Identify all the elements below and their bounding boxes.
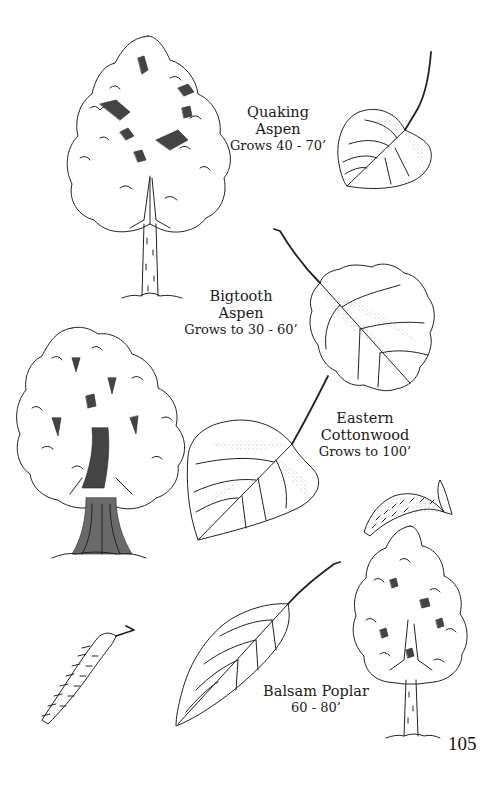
eastern-cottonwood-tree-icon — [12, 318, 190, 570]
species-height: Grows 40 - 70’ — [222, 138, 334, 153]
species-name: Quaking — [222, 104, 334, 121]
eastern-cottonwood-leaf-icon — [180, 372, 330, 554]
page-number: 105 — [448, 733, 477, 755]
species-name: Eastern — [306, 410, 424, 427]
quaking-aspen-label: Quaking Aspen Grows 40 - 70’ — [222, 104, 334, 154]
eastern-cottonwood-label: Eastern Cottonwood Grows to 100’ — [306, 410, 424, 460]
species-height: 60 - 80’ — [262, 700, 370, 715]
species-name: Cottonwood — [306, 427, 424, 444]
bigtooth-aspen-leaf-icon — [270, 225, 465, 395]
book-page: Quaking Aspen Grows 40 - 70’ Bigtooth As… — [0, 0, 498, 785]
quaking-aspen-leaf-icon — [325, 48, 445, 193]
species-height: Grows to 100’ — [306, 444, 424, 459]
balsam-poplar-label: Balsam Poplar 60 - 80’ — [262, 683, 370, 715]
balsam-poplar-catkin-icon — [30, 620, 135, 730]
quaking-aspen-tree-icon — [60, 28, 240, 303]
species-name: Balsam Poplar — [262, 683, 370, 700]
species-name: Aspen — [222, 121, 334, 138]
